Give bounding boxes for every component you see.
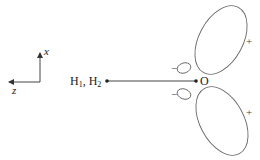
upper-small-lobe xyxy=(176,61,193,75)
hydrogen-label: H1, H2 xyxy=(70,75,101,89)
oxygen-dot xyxy=(194,79,198,83)
lower-large-lobe-sign: + xyxy=(246,107,252,118)
h2-subscript: 2 xyxy=(97,80,101,89)
oxygen-label: O xyxy=(200,75,209,87)
lower-small-lobe-sign: − xyxy=(171,89,177,100)
lower-small-lobe xyxy=(176,87,193,101)
axis-arrows xyxy=(9,53,40,82)
h1-symbol: H xyxy=(70,74,79,88)
z-axis-label: z xyxy=(12,85,16,96)
upper-small-lobe-sign: − xyxy=(171,63,177,74)
lower-large-lobe xyxy=(185,78,259,160)
orbital-diagram xyxy=(0,0,260,160)
upper-large-lobe-sign: + xyxy=(246,36,252,47)
x-axis-label: x xyxy=(44,46,49,57)
hydrogen-dot xyxy=(105,79,109,83)
